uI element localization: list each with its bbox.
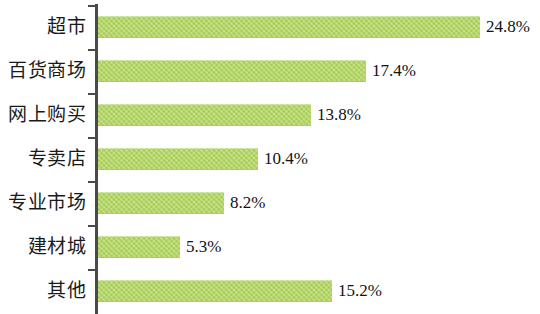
bar-row: 建材城 5.3% <box>0 225 540 269</box>
bar-row: 百货商场 17.4% <box>0 49 540 93</box>
bar-rows: 超市 24.8% 百货商场 17.4% 网上购买 13.8% 专卖店 <box>0 0 540 314</box>
bar <box>98 192 224 214</box>
category-label: 其他 <box>0 280 86 302</box>
category-label: 建材城 <box>0 236 86 258</box>
bar-container <box>98 236 180 258</box>
bar-row: 网上购买 13.8% <box>0 93 540 137</box>
bar-row: 专卖店 10.4% <box>0 137 540 181</box>
category-label: 专业市场 <box>0 192 86 214</box>
value-label: 15.2% <box>338 281 382 301</box>
bar-row: 超市 24.8% <box>0 5 540 49</box>
bar-container <box>98 148 258 170</box>
category-label: 专卖店 <box>0 148 86 170</box>
bar <box>98 280 332 302</box>
bar <box>98 148 258 170</box>
bar-row: 专业市场 8.2% <box>0 181 540 225</box>
bar-container <box>98 16 480 38</box>
bar-container <box>98 280 332 302</box>
bar <box>98 16 480 38</box>
value-label: 5.3% <box>186 237 221 257</box>
category-label: 百货商场 <box>0 60 86 82</box>
value-label: 17.4% <box>372 61 416 81</box>
bar-row: 其他 15.2% <box>0 269 540 313</box>
bar-container <box>98 192 224 214</box>
value-label: 8.2% <box>230 193 265 213</box>
horizontal-bar-chart: 超市 24.8% 百货商场 17.4% 网上购买 13.8% 专卖店 <box>0 0 540 314</box>
value-label: 13.8% <box>317 105 361 125</box>
bar <box>98 60 366 82</box>
value-label: 24.8% <box>486 17 530 37</box>
bar-container <box>98 104 311 126</box>
value-label: 10.4% <box>264 149 308 169</box>
bar-container <box>98 60 366 82</box>
bar <box>98 104 311 126</box>
category-label: 网上购买 <box>0 104 86 126</box>
bar <box>98 236 180 258</box>
category-label: 超市 <box>0 16 86 38</box>
